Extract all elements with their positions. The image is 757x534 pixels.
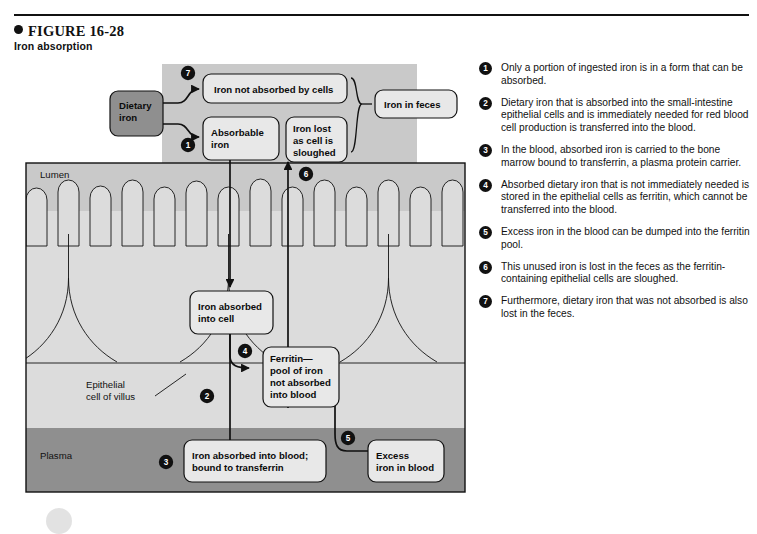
legend-text-1: Only a portion of ingested iron is in a … [501,62,751,88]
step-badge-5-number: 5 [346,434,351,443]
box-iron-not-absorbed[interactable]: Iron not absorbed by cells [203,74,347,103]
legend-text-6: This unused iron is lost in the feces as… [501,261,751,287]
box-dietary-iron-line2: iron [119,112,137,123]
lumen-label: Lumen [40,169,69,180]
legend-badge-6: 6 [479,261,492,274]
box-ferritin-pool-line4: into blood [270,389,316,400]
legend-list: 1 Only a portion of ingested iron is in … [479,62,751,330]
step-badge-1-number: 1 [186,141,191,150]
legend-badge-4: 4 [479,179,492,192]
box-iron-not-absorbed-line1: Iron not absorbed by cells [214,84,333,95]
box-iron-lost-sloughed[interactable]: Iron lost as cell is sloughed [286,117,347,162]
step-badge-3: 3 [159,455,173,469]
box-iron-lost-sloughed-line1: Iron lost [293,123,332,134]
step-badge-7-number: 7 [186,69,191,78]
step-badge-7: 7 [181,66,195,80]
legend-item-4: 4 Absorbed dietary iron that is not imme… [479,179,751,217]
epithelial-cell-label-line2: cell of villus [86,391,135,402]
box-iron-absorbed-into-cell-line2: into cell [198,313,234,324]
step-badge-4-number: 4 [243,347,248,356]
legend-badge-5: 5 [479,226,492,239]
legend-text-2: Dietary iron that is absorbed into the s… [501,97,751,135]
box-iron-in-feces[interactable]: Iron in feces [375,90,457,118]
box-absorbable-iron[interactable]: Absorbable iron [203,117,279,160]
box-excess-iron-in-blood-line1: Excess [376,450,409,461]
page-corner-artifact [46,508,72,534]
legend-item-2: 2 Dietary iron that is absorbed into the… [479,97,751,135]
box-dietary-iron-line1: Dietary [119,100,152,111]
legend-text-7: Furthermore, dietary iron that was not a… [501,295,751,321]
box-iron-absorbed-into-blood-line1: Iron absorbed into blood; [192,450,308,461]
step-badge-6-number: 6 [304,170,309,179]
legend-text-3: In the blood, absorbed iron is carried t… [501,144,751,170]
step-badge-1: 1 [181,138,195,152]
legend-item-6: 6 This unused iron is lost in the feces … [479,261,751,287]
legend-badge-3: 3 [479,144,492,157]
box-ferritin-pool[interactable]: Ferritin— pool of iron not absorbed into… [263,347,339,407]
figure-heading: FIGURE 16-28 [14,22,124,40]
box-ferritin-pool-line3: not absorbed [270,377,331,388]
box-ferritin-pool-line1: Ferritin— [270,353,313,364]
box-iron-lost-sloughed-line2: as cell is [293,135,333,146]
epithelial-cell-label-line1: Epithelial [86,379,125,390]
legend-item-7: 7 Furthermore, dietary iron that was not… [479,295,751,321]
box-excess-iron-in-blood[interactable]: Excess iron in blood [368,440,444,482]
step-badge-4: 4 [238,344,252,358]
box-iron-absorbed-into-blood[interactable]: Iron absorbed into blood; bound to trans… [184,440,326,482]
box-iron-lost-sloughed-line3: sloughed [293,147,336,158]
step-badge-6: 6 [299,167,313,181]
legend-badge-2: 2 [479,97,492,110]
figure-title: Iron absorption [14,40,93,52]
figure-number: FIGURE 16-28 [28,23,124,39]
box-iron-absorbed-into-blood-line2: bound to transferrin [192,462,284,473]
box-ferritin-pool-line2: pool of iron [270,365,323,376]
legend-text-5: Excess iron in the blood can be dumped i… [501,226,751,252]
legend-text-4: Absorbed dietary iron that is not immedi… [501,179,751,217]
legend-item-5: 5 Excess iron in the blood can be dumped… [479,226,751,252]
box-excess-iron-in-blood-line2: iron in blood [376,462,434,473]
step-badge-3-number: 3 [164,458,169,467]
filled-circle-icon [14,25,23,34]
box-absorbable-iron-line1: Absorbable [211,127,264,138]
legend-badge-1: 1 [479,62,492,75]
box-iron-absorbed-into-cell[interactable]: Iron absorbed into cell [190,291,273,334]
box-iron-absorbed-into-cell-line1: Iron absorbed [198,301,262,312]
iron-absorption-diagram: Lumen Plasma Epithelial cell of villus [0,56,470,504]
box-dietary-iron[interactable]: Dietary iron [110,91,163,136]
legend-item-1: 1 Only a portion of ingested iron is in … [479,62,751,88]
step-badge-2-number: 2 [205,392,210,401]
box-absorbable-iron-line2: iron [211,139,229,150]
header-rule [14,14,749,16]
step-badge-2: 2 [200,389,214,403]
legend-badge-7: 7 [479,295,492,308]
legend-item-3: 3 In the blood, absorbed iron is carried… [479,144,751,170]
box-iron-in-feces-line1: Iron in feces [384,99,441,110]
step-badge-5: 5 [341,431,355,445]
plasma-label: Plasma [40,450,73,461]
